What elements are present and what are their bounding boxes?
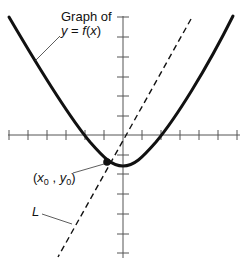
tangent-line-l	[58, 19, 191, 257]
graph-label-line1: Graph of	[61, 9, 112, 24]
y-axis	[117, 16, 129, 258]
graph-label-leader	[35, 36, 60, 61]
graph-label-line2: y = f(x)	[60, 23, 101, 38]
function-graph-diagram: Graph of y = f(x) (x0 , y0) L	[0, 0, 244, 265]
tangent-point	[103, 158, 111, 166]
x-axis	[8, 130, 240, 140]
line-l-label: L	[32, 204, 39, 219]
point-label-leader	[73, 164, 104, 173]
point-label: (x0 , y0)	[33, 170, 76, 187]
line-l-label-leader	[42, 214, 72, 224]
